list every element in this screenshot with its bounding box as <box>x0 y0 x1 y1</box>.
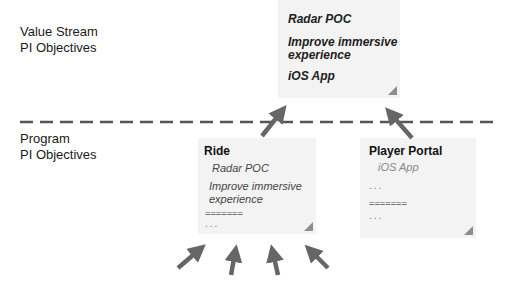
arrow-player-portal-to-value-stream <box>391 114 412 138</box>
diagram-overlay <box>0 0 508 285</box>
arrow-incoming-1 <box>178 250 199 268</box>
arrow-incoming-3 <box>273 253 278 275</box>
arrow-incoming-4 <box>311 251 328 268</box>
arrow-ride-to-value-stream <box>262 112 281 136</box>
arrow-incoming-2 <box>231 253 235 275</box>
